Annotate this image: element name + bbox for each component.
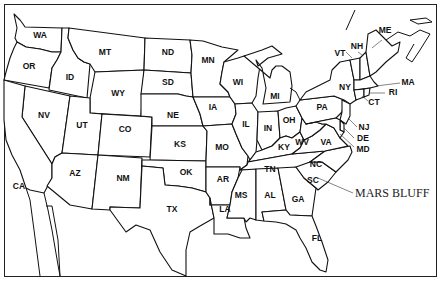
- state-CT[interactable]: [354, 89, 364, 100]
- state-label-WV: WV: [295, 137, 309, 147]
- state-label-IA: IA: [209, 102, 218, 112]
- state-CO[interactable]: [98, 114, 152, 157]
- state-label-TN: TN: [264, 164, 275, 174]
- state-label-OH: OH: [283, 115, 296, 125]
- state-label-WA: WA: [33, 30, 47, 40]
- state-label-KY: KY: [278, 142, 290, 152]
- state-label-TX: TX: [167, 204, 178, 214]
- state-AZ[interactable]: [47, 153, 98, 209]
- state-label-MS: MS: [235, 190, 248, 200]
- state-label-NE: NE: [167, 110, 179, 120]
- state-label-NY: NY: [339, 82, 351, 92]
- state-label-SD: SD: [162, 77, 174, 87]
- state-label-AZ: AZ: [69, 168, 80, 178]
- state-label-MO: MO: [215, 142, 229, 152]
- state-label-OK: OK: [180, 167, 194, 177]
- state-label-MN: MN: [201, 55, 214, 65]
- state-label-ID: ID: [66, 72, 75, 82]
- state-label-AR: AR: [217, 174, 229, 184]
- state-label-WY: WY: [111, 88, 125, 98]
- state-label-UT: UT: [76, 120, 88, 130]
- state-label-ND: ND: [162, 47, 174, 57]
- state-label-KS: KS: [174, 139, 186, 149]
- state-label-NH: NH: [351, 41, 363, 51]
- leader-DE: [344, 128, 354, 138]
- leader-VT: [346, 52, 352, 58]
- leader-MA: [376, 83, 400, 86]
- state-label-MT: MT: [99, 47, 112, 57]
- state-label-GA: GA: [292, 194, 305, 204]
- mars-bluff-label: MARS BLUFF: [355, 186, 430, 200]
- state-label-ME: ME: [379, 25, 392, 35]
- state-label-PA: PA: [316, 102, 327, 112]
- leader-NH: [358, 52, 362, 55]
- state-label-CT: CT: [368, 97, 380, 107]
- state-label-IN: IN: [264, 123, 273, 133]
- state-label-NV: NV: [38, 110, 50, 120]
- state-RI[interactable]: [364, 88, 370, 97]
- state-label-SC: SC: [307, 175, 319, 185]
- leader-NJ: [348, 118, 357, 127]
- state-label-CO: CO: [119, 124, 132, 134]
- us-states-map: WAORCAIDNVMTWYUTAZCONMNDSDNEKSOKTXMNIAMO…: [0, 0, 441, 287]
- state-label-NC: NC: [310, 159, 322, 169]
- state-label-MD: MD: [356, 144, 369, 154]
- state-ME[interactable]: [366, 30, 400, 76]
- state-label-IL: IL: [242, 119, 250, 129]
- state-label-CA: CA: [13, 181, 25, 191]
- state-label-VA: VA: [320, 137, 331, 147]
- state-label-DE: DE: [357, 133, 369, 143]
- state-NJ[interactable]: [340, 100, 350, 124]
- state-label-NJ: NJ: [359, 122, 370, 132]
- state-label-RI: RI: [389, 87, 398, 97]
- state-label-MA: MA: [401, 77, 414, 87]
- state-label-MI: MI: [270, 91, 279, 101]
- state-label-OR: OR: [23, 61, 36, 71]
- state-label-FL: FL: [312, 233, 322, 243]
- state-label-LA: LA: [219, 204, 230, 214]
- state-label-VT: VT: [335, 48, 347, 58]
- state-label-NM: NM: [116, 173, 129, 183]
- state-label-WI: WI: [233, 77, 243, 87]
- state-label-AL: AL: [264, 190, 275, 200]
